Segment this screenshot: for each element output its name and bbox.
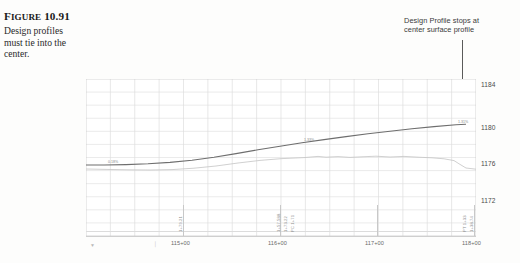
figure-number: 10.91 xyxy=(44,10,70,22)
figure-label-smallcaps: IGURE xyxy=(11,12,41,22)
caption-line-3: center. xyxy=(4,48,108,60)
figure-caption-text: Design profiles must tie into the center… xyxy=(4,25,108,60)
x-axis-tick-label: 117+00 xyxy=(365,240,384,246)
grade-label: 1.31% xyxy=(458,120,469,124)
x-axis-tick-label: 116+00 xyxy=(268,240,287,246)
station-note-label: PC 1+71 xyxy=(290,215,295,232)
y-axis-tick-label: 1176 xyxy=(481,160,496,167)
station-note-label: 1+57.588 xyxy=(276,214,281,232)
axis-rule-lower xyxy=(86,236,476,237)
station-note-label: 1+73.22 xyxy=(283,216,288,232)
grade-label: 1.33% xyxy=(304,138,315,142)
profile-chart: 0.18%1.33%1.31% xyxy=(86,79,476,236)
station-note-label: 1+79.21 xyxy=(178,216,183,232)
axis-rule-upper xyxy=(86,231,476,232)
x-axis-tickmark xyxy=(474,205,475,236)
figure-page: FIGURE 10.91 Design profiles must tie in… xyxy=(0,0,520,263)
x-axis-tickmark xyxy=(377,205,378,236)
caption-line-1: Design profiles xyxy=(4,25,108,37)
chart-svg: 0.18%1.33%1.31% xyxy=(86,79,476,236)
station-note-label: 1+38.74 xyxy=(469,216,474,232)
callout-annotation: Design Profile stops at center surface p… xyxy=(404,16,520,34)
station-note-label: PT 1+33 xyxy=(462,215,467,232)
annotation-line-2: center surface profile xyxy=(404,25,520,34)
x-axis-tick-label: 118+00 xyxy=(462,240,481,246)
caption-line-2: must tie into the xyxy=(4,37,108,49)
y-axis-tick-label: 1184 xyxy=(481,81,496,88)
x-axis-tickmark xyxy=(183,205,184,236)
y-axis-tick-label: 1172 xyxy=(481,197,496,204)
y-axis-tick-label: 1180 xyxy=(481,124,496,131)
grade-label: 0.18% xyxy=(108,160,119,164)
figure-label-lead: F xyxy=(4,10,11,22)
axis-tick-glyph-icon: │ xyxy=(154,241,157,247)
figure-label: FIGURE 10.91 xyxy=(4,10,108,24)
figure-caption: FIGURE 10.91 Design profiles must tie in… xyxy=(4,10,108,60)
annotation-line-1: Design Profile stops at xyxy=(404,16,520,25)
x-axis-tick-label: 115+00 xyxy=(171,240,190,246)
axis-left-glyph-icon: ▼ xyxy=(90,242,95,248)
